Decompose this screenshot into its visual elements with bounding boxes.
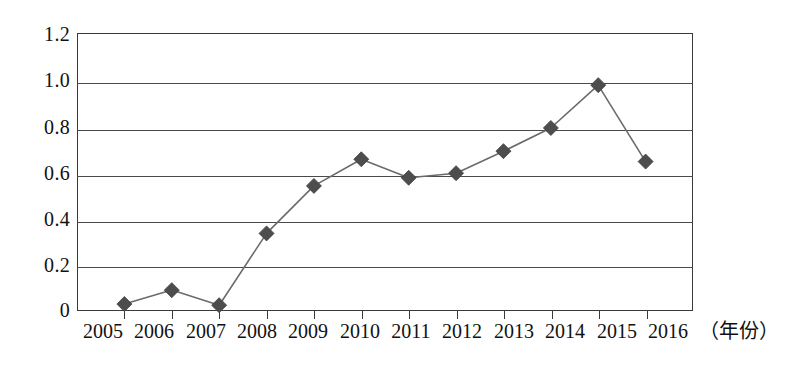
- x-axis-title: （年份）: [699, 320, 779, 342]
- gridline-1.0: [77, 83, 693, 84]
- x-axis-tick: [599, 311, 600, 319]
- y-tick-label: 0.8: [6, 117, 70, 137]
- x-axis-tick: [647, 311, 648, 319]
- x-axis-tick: [552, 311, 553, 319]
- x-axis-tick: [314, 311, 315, 319]
- y-tick-label: 0: [6, 300, 70, 320]
- y-tick-label: 0.4: [6, 209, 70, 229]
- y-axis-tick-labels: 1.2 1.0 0.8 0.6 0.4 0.2 0: [0, 0, 70, 368]
- gridline-0.2: [77, 267, 693, 268]
- y-tick-label: 1.0: [6, 70, 70, 90]
- x-axis-tick: [409, 311, 410, 319]
- x-axis-tick: [362, 311, 363, 319]
- y-tick-label: 0.2: [6, 255, 70, 275]
- plot-area: [77, 33, 693, 311]
- x-axis-tick: [124, 311, 125, 319]
- y-tick-label: 0.6: [6, 163, 70, 183]
- x-axis-tick: [504, 311, 505, 319]
- y-tick-label: 1.2: [6, 24, 70, 44]
- x-axis-tick: [267, 311, 268, 319]
- gridline-0.6: [77, 176, 693, 177]
- line-chart: 1.2 1.0 0.8 0.6 0.4 0.2 0 2005 2006 2007…: [0, 0, 802, 368]
- gridline-0.4: [77, 222, 693, 223]
- x-axis-tick: [172, 311, 173, 319]
- gridline-0.8: [77, 130, 693, 131]
- x-axis-tick: [457, 311, 458, 319]
- x-axis-tick: [219, 311, 220, 319]
- x-tick-label-2016: 2016: [633, 320, 703, 342]
